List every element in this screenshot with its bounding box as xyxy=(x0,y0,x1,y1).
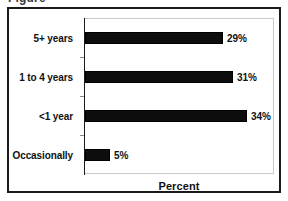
clipped-caption-text: Figure xyxy=(8,0,46,5)
clipped-caption-strip: Figure xyxy=(0,0,288,6)
figure-frame: 5+ years 29% 1 to 4 years 31% <1 year 34… xyxy=(7,7,281,193)
bar-value-label: 29% xyxy=(227,32,247,43)
category-label: Occasionally xyxy=(13,149,74,160)
bar-value-label: 31% xyxy=(237,71,257,82)
bar-value-label: 5% xyxy=(114,149,128,160)
chart-row: Occasionally 5% xyxy=(9,135,279,174)
bar xyxy=(85,32,223,44)
chart-row: 5+ years 29% xyxy=(9,18,279,57)
chart-screenshot: Figure 5+ years 29% 1 to 4 years 31% <1 … xyxy=(0,0,288,201)
x-axis-title: Percent xyxy=(84,180,274,192)
category-label: 1 to 4 years xyxy=(19,71,73,82)
bar-value-label: 34% xyxy=(251,110,271,121)
bar xyxy=(85,110,247,122)
bar xyxy=(85,71,233,83)
bar xyxy=(85,149,110,161)
category-label: 5+ years xyxy=(33,32,73,43)
chart-row: <1 year 34% xyxy=(9,96,279,135)
category-label: <1 year xyxy=(39,110,73,121)
chart-row: 1 to 4 years 31% xyxy=(9,57,279,96)
